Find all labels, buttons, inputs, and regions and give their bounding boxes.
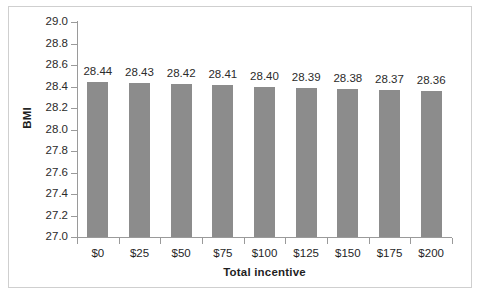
y-axis-tick — [71, 151, 77, 152]
y-axis-tick — [71, 44, 77, 45]
y-axis-tick-label-text: 28.8 — [18, 38, 68, 50]
bar-value-label: 28.41 — [200, 69, 246, 81]
bar — [337, 89, 358, 237]
y-axis-tick — [71, 173, 77, 174]
x-axis-tick — [452, 238, 453, 244]
x-axis-tick — [244, 238, 245, 244]
y-axis-tick-label: 29.0 — [18, 16, 68, 28]
y-axis-tick-label-text: 27.2 — [18, 210, 68, 222]
bar-chart-figure: 29.028.828.628.428.228.027.827.627.427.2… — [0, 0, 487, 298]
bar-value-label: 28.40 — [242, 71, 288, 83]
bar — [379, 90, 400, 237]
y-axis-tick-label: 27.2 — [18, 210, 68, 222]
y-axis-tick-label-text: 27.6 — [18, 167, 68, 179]
x-axis-category-label: $75 — [200, 248, 246, 260]
bar — [171, 84, 192, 237]
bar — [129, 83, 150, 237]
x-axis-tick — [327, 238, 328, 244]
x-axis-category-label: $50 — [158, 248, 204, 260]
y-axis-tick-label: 27.4 — [18, 188, 68, 200]
y-axis-title: BMI — [21, 88, 33, 148]
x-axis-category-label: $175 — [367, 248, 413, 260]
y-axis-tick-label: 27.0 — [18, 231, 68, 243]
y-axis-tick-label-text: 28.6 — [18, 59, 68, 71]
bar — [421, 91, 442, 237]
x-axis-tick — [160, 238, 161, 244]
x-axis-tick — [285, 238, 286, 244]
x-axis-tick — [119, 238, 120, 244]
y-axis-tick — [71, 216, 77, 217]
bar-value-label: 28.39 — [283, 72, 329, 84]
bar-value-label: 28.37 — [367, 74, 413, 86]
x-axis-tick — [77, 238, 78, 244]
y-axis-tick — [71, 194, 77, 195]
x-axis-category-label: $125 — [283, 248, 329, 260]
y-axis-tick — [71, 22, 77, 23]
y-axis-tick-label-text: 27.4 — [18, 188, 68, 200]
y-axis-tick-label-text: 29.0 — [18, 16, 68, 28]
x-axis-title: Total incentive — [77, 266, 452, 278]
x-axis-category-label: $100 — [242, 248, 288, 260]
bar — [87, 82, 108, 237]
y-axis-tick-label: 28.8 — [18, 38, 68, 50]
y-axis-tick — [71, 87, 77, 88]
x-axis-category-label: $200 — [408, 248, 454, 260]
y-axis-tick — [71, 130, 77, 131]
x-axis-line — [77, 237, 452, 238]
x-axis-tick — [410, 238, 411, 244]
x-axis-tick — [202, 238, 203, 244]
x-axis-category-label: $25 — [117, 248, 163, 260]
bar — [254, 87, 275, 238]
bar — [212, 85, 233, 237]
x-axis-category-label: $150 — [325, 248, 371, 260]
bar-value-label: 28.42 — [158, 68, 204, 80]
x-axis-category-label: $0 — [75, 248, 121, 260]
x-axis-tick — [369, 238, 370, 244]
y-axis-tick — [71, 108, 77, 109]
bar-value-label: 28.44 — [75, 66, 121, 78]
y-axis-tick-label: 27.6 — [18, 167, 68, 179]
bar-value-label: 28.38 — [325, 73, 371, 85]
y-axis-tick-label: 28.6 — [18, 59, 68, 71]
bar-value-label: 28.43 — [117, 67, 163, 79]
bar-value-label: 28.36 — [408, 75, 454, 87]
y-axis-tick-label-text: 27.0 — [18, 231, 68, 243]
y-axis-line — [77, 21, 78, 238]
bar — [296, 88, 317, 237]
